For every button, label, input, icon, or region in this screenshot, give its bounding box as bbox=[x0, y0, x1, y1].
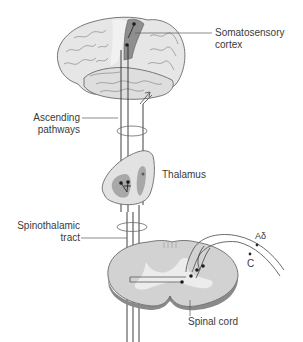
a-delta-fiber-marker bbox=[256, 244, 259, 247]
thalamus-illustration bbox=[102, 151, 154, 205]
spinothalamic-tract-label: Spinothalamic tract bbox=[8, 220, 80, 244]
ascending-pathway-ring bbox=[117, 126, 147, 136]
somatosensory-cortex-label-line2: cortex bbox=[215, 39, 284, 51]
a-delta-fiber-label: Aδ bbox=[255, 230, 266, 242]
spinothalamic-tract-label-line2: tract bbox=[8, 232, 80, 244]
thalamus-label: Thalamus bbox=[162, 169, 206, 181]
spinal-cord-illustration bbox=[108, 241, 238, 317]
spinothalamic-tract-ring bbox=[117, 223, 147, 232]
ascending-pathways-label-line1: Ascending bbox=[26, 112, 80, 124]
spinal-cord-label: Spinal cord bbox=[188, 316, 238, 328]
c-fiber-marker bbox=[249, 253, 252, 256]
somatosensory-cortex-label-line1: Somatosensory bbox=[215, 27, 284, 39]
ascending-pathways-label-line2: pathways bbox=[26, 124, 80, 136]
somatosensory-cortex-label: Somatosensory cortex bbox=[215, 27, 284, 51]
c-fiber-label: C bbox=[247, 258, 254, 270]
ascending-pathways-label: Ascending pathways bbox=[26, 112, 80, 136]
pain-pathway-diagram: Somatosensory cortex Ascending pathways … bbox=[0, 0, 303, 342]
diagram-canvas bbox=[0, 0, 303, 342]
spinothalamic-tract-label-line1: Spinothalamic bbox=[8, 220, 80, 232]
